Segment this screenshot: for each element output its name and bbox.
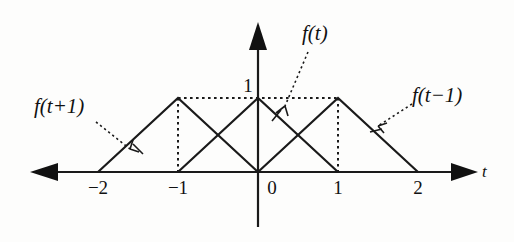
leader-arrowhead-f-t-minus-1 xyxy=(370,123,387,133)
leader-line-f-t-minus-1 xyxy=(378,104,412,126)
x-axis-label: t xyxy=(482,163,487,180)
y-axis-arrowhead xyxy=(249,22,267,50)
figure-container: f(t+1) f(t) f(t−1) 1 −2 −1 0 1 2 t xyxy=(0,0,514,242)
curve-label-f-t-plus-1: f(t+1) xyxy=(34,96,84,117)
x-tick-label-minus-2: −2 xyxy=(80,178,116,197)
x-tick-label-one: 1 xyxy=(328,178,348,197)
curve-label-f-t: f(t) xyxy=(302,23,328,44)
x-axis-left-arrowhead xyxy=(30,163,58,181)
x-tick-label-minus-1: −1 xyxy=(160,178,196,197)
x-tick-label-zero: 0 xyxy=(262,178,282,197)
x-axis-right-arrowhead xyxy=(451,163,478,181)
plot-svg xyxy=(0,0,514,242)
y-axis-value-label: 1 xyxy=(240,76,256,95)
leader-arrowhead-f-t-plus-1 xyxy=(130,140,143,154)
curve-label-f-t-minus-1: f(t−1) xyxy=(412,85,462,106)
leader-line-f-t-plus-1 xyxy=(96,122,130,149)
x-tick-label-two: 2 xyxy=(408,178,428,197)
